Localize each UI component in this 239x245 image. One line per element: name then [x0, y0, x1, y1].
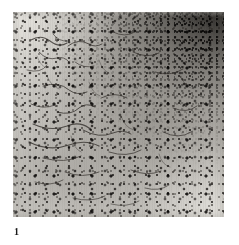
- figure-number-caption: 1: [14, 226, 19, 238]
- micrograph-image: [13, 12, 224, 217]
- figure-plate: 1: [0, 0, 239, 245]
- film-edge-vignette: [13, 12, 224, 217]
